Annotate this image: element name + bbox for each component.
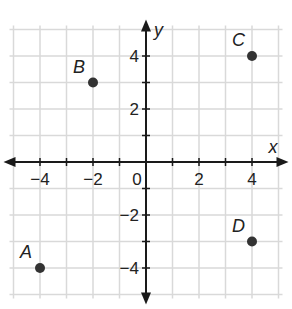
y-tick-label: −2 bbox=[120, 206, 139, 225]
y-tick-label: −4 bbox=[120, 259, 139, 278]
y-axis-label: y bbox=[152, 20, 164, 40]
x-tick-label: −2 bbox=[83, 170, 102, 189]
y-tick-label: 4 bbox=[130, 47, 139, 66]
point-c bbox=[247, 51, 257, 61]
x-axis-label: x bbox=[268, 137, 279, 157]
point-a bbox=[35, 263, 45, 273]
x-tick-label: −4 bbox=[30, 170, 49, 189]
x-tick-label: 2 bbox=[194, 170, 203, 189]
y-axis-arrow-down-icon bbox=[141, 293, 151, 305]
point-d bbox=[247, 237, 257, 247]
x-axis-arrow-left-icon bbox=[4, 157, 16, 167]
y-axis-arrow-up-icon bbox=[141, 20, 151, 32]
x-tick-label: 0 bbox=[132, 170, 141, 189]
point-label-a: A bbox=[19, 242, 32, 262]
x-tick-label: 4 bbox=[247, 170, 256, 189]
coordinate-plane: −4−2024−4−224xyABCD bbox=[0, 0, 292, 309]
x-axis-arrow-right-icon bbox=[277, 157, 289, 167]
point-label-c: C bbox=[232, 30, 246, 50]
point-b bbox=[88, 78, 98, 88]
y-tick-label: 2 bbox=[130, 100, 139, 119]
point-label-b: B bbox=[73, 57, 85, 77]
point-label-d: D bbox=[232, 216, 245, 236]
